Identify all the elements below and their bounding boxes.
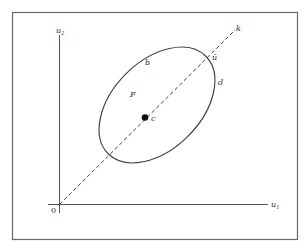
boundary-label-d: d: [218, 78, 223, 87]
point-c: [142, 114, 149, 121]
origin-label: 0: [51, 206, 56, 215]
y-axis-label: u2: [56, 26, 64, 36]
region-label-F: F: [129, 90, 136, 99]
ray-label-k: k: [236, 24, 241, 33]
boundary-label-b: b: [145, 58, 150, 67]
diagram-canvas: u2 u1 0 k F b d c ū: [0, 0, 308, 248]
ellipse-F: [77, 25, 237, 185]
point-label-u-bar: ū: [212, 53, 217, 62]
point-label-c: c: [151, 114, 156, 123]
x-axis-label: u1: [271, 200, 279, 210]
